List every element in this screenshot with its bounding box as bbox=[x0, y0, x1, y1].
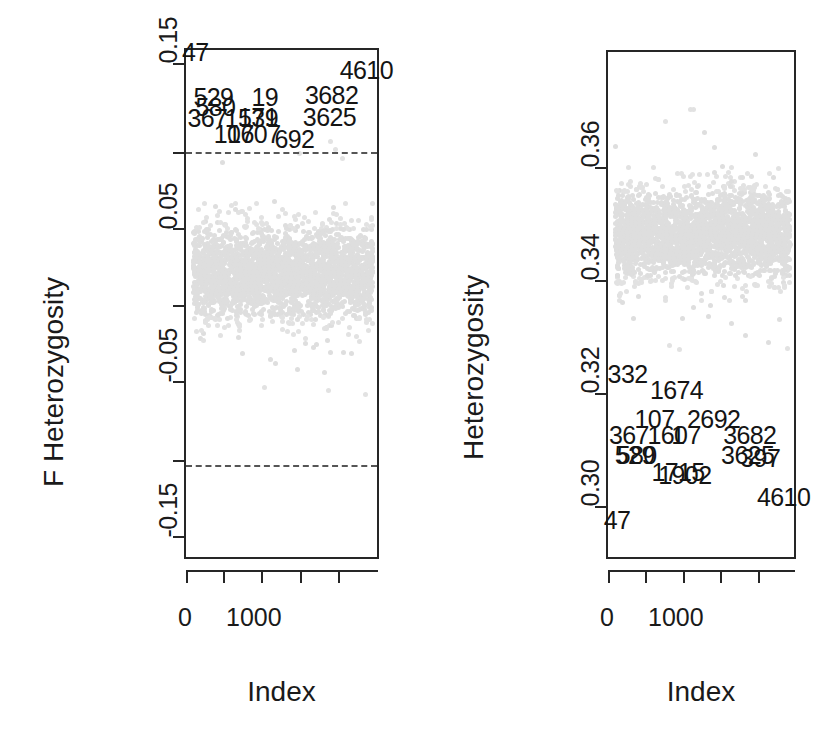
left-ytick-1 bbox=[173, 152, 184, 154]
right-x-axis-title: Index bbox=[606, 676, 796, 708]
outlier-label: 1902 bbox=[658, 463, 711, 488]
left-xtick-1 bbox=[223, 570, 225, 583]
outlier-label: 332 bbox=[608, 362, 648, 387]
outlier-label: 47 bbox=[182, 40, 209, 65]
right-x-axis-line bbox=[608, 570, 795, 572]
outlier-label: 4610 bbox=[757, 485, 810, 510]
left-xtick-label-0: 0 bbox=[178, 605, 192, 630]
right-y-axis-title: Heterozygosity bbox=[458, 275, 490, 460]
left-ytick-5 bbox=[173, 460, 184, 462]
left-xtick-2 bbox=[261, 570, 263, 583]
left-xtick-label-1: 1000 bbox=[226, 605, 282, 630]
left-xtick-4 bbox=[338, 570, 340, 583]
panel-heterozygosity: Heterozygosity 0.36 0.34 0.32 0.30 33216… bbox=[420, 0, 835, 747]
right-xtick-4 bbox=[758, 570, 760, 583]
outlier-label: 692 bbox=[275, 127, 315, 152]
outlier-label: 4610 bbox=[340, 58, 393, 83]
outlier-label: 1 bbox=[671, 423, 684, 448]
panel-f-heterozygosity: F Heterozygosity 0.15 0.05 -0.05 -0.15 4… bbox=[0, 0, 420, 747]
figure-canvas: F Heterozygosity 0.15 0.05 -0.05 -0.15 4… bbox=[0, 0, 835, 747]
right-xtick-2 bbox=[683, 570, 685, 583]
left-threshold-lower bbox=[186, 465, 377, 467]
outlier-label: 107 bbox=[214, 122, 254, 147]
right-xtick-1 bbox=[645, 570, 647, 583]
left-xtick-0 bbox=[186, 570, 188, 583]
outlier-label: 1674 bbox=[650, 378, 703, 403]
right-xtick-3 bbox=[720, 570, 722, 583]
left-xtick-3 bbox=[300, 570, 302, 583]
left-x-axis-title: Index bbox=[184, 676, 379, 708]
left-ytick-3 bbox=[173, 305, 184, 307]
outlier-label: 47 bbox=[604, 508, 631, 533]
left-y-axis-title: F Heterozygosity bbox=[38, 277, 70, 487]
outlier-label: 397 bbox=[740, 446, 780, 471]
right-xtick-label-1: 1000 bbox=[648, 605, 704, 630]
outlier-label: 529 bbox=[615, 443, 655, 468]
right-xtick-0 bbox=[608, 570, 610, 583]
left-x-axis-line bbox=[186, 570, 378, 572]
right-xtick-label-0: 0 bbox=[600, 605, 614, 630]
